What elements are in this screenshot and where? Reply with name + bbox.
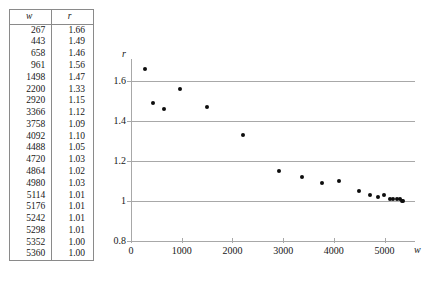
table-row: 14981.47 xyxy=(10,72,94,84)
cell-w: 3366 xyxy=(10,107,52,119)
cell-r: 1.01 xyxy=(52,225,94,237)
table-row: 51141.01 xyxy=(10,189,94,201)
table-head: w r xyxy=(10,10,94,25)
cell-r: 1.46 xyxy=(52,48,94,60)
gridline-horizontal xyxy=(131,121,415,122)
cell-w: 4720 xyxy=(10,154,52,166)
x-tick-label: 3000 xyxy=(263,246,303,256)
cell-w: 3758 xyxy=(10,119,52,131)
cell-r: 1.66 xyxy=(52,24,94,36)
x-tick-label: 4000 xyxy=(314,246,354,256)
scatter-chart: r w 0.811.21.41.6010002000300040005000 xyxy=(100,55,433,299)
cell-w: 5352 xyxy=(10,237,52,249)
cell-r: 1.49 xyxy=(52,36,94,48)
cell-w: 5360 xyxy=(10,248,52,260)
column-header-w: w xyxy=(10,10,52,25)
cell-w: 4864 xyxy=(10,166,52,178)
cell-w: 4092 xyxy=(10,131,52,143)
table-row: 33661.12 xyxy=(10,107,94,119)
cell-w: 5242 xyxy=(10,213,52,225)
y-tick-label: 1.6 xyxy=(86,76,126,86)
table-row: 47201.03 xyxy=(10,154,94,166)
table-row: 22001.33 xyxy=(10,83,94,95)
cell-w: 2920 xyxy=(10,95,52,107)
data-table: w r 2671.664431.496581.469611.5614981.47… xyxy=(9,9,94,261)
y-tick-label: 1 xyxy=(86,196,126,206)
data-point xyxy=(382,193,386,197)
data-table-container: w r 2671.664431.496581.469611.5614981.47… xyxy=(9,9,94,261)
cell-w: 961 xyxy=(10,60,52,72)
table-row: 48641.02 xyxy=(10,166,94,178)
table-row: 6581.46 xyxy=(10,48,94,60)
data-point xyxy=(357,189,361,193)
data-point xyxy=(401,199,405,203)
x-tick-label: 1000 xyxy=(162,246,202,256)
cell-w: 4488 xyxy=(10,142,52,154)
y-axis-label: r xyxy=(122,49,126,59)
gridline-horizontal xyxy=(131,81,415,82)
table-row: 40921.10 xyxy=(10,131,94,143)
data-point xyxy=(300,175,304,179)
table-row: 37581.09 xyxy=(10,119,94,131)
cell-r: 1.15 xyxy=(52,95,94,107)
cell-w: 5114 xyxy=(10,189,52,201)
cell-r: 1.05 xyxy=(52,142,94,154)
cell-w: 1498 xyxy=(10,72,52,84)
cell-w: 4980 xyxy=(10,178,52,190)
cell-r: 1.00 xyxy=(52,248,94,260)
data-point xyxy=(151,101,155,105)
cell-w: 2200 xyxy=(10,83,52,95)
table-row: 9611.56 xyxy=(10,60,94,72)
cell-r: 1.01 xyxy=(52,213,94,225)
figure-page: w r 2671.664431.496581.469611.5614981.47… xyxy=(0,0,433,299)
column-header-r: r xyxy=(52,10,94,25)
cell-w: 658 xyxy=(10,48,52,60)
data-point xyxy=(143,67,147,71)
gridline-horizontal xyxy=(131,241,415,242)
plot-area xyxy=(131,61,415,241)
data-point xyxy=(241,133,245,137)
table-body: 2671.664431.496581.469611.5614981.472200… xyxy=(10,24,94,261)
gridline-horizontal xyxy=(131,201,415,202)
x-tick-label: 2000 xyxy=(212,246,252,256)
data-point xyxy=(368,193,372,197)
table-row: 53521.00 xyxy=(10,237,94,249)
cell-w: 5176 xyxy=(10,201,52,213)
table-row: 2671.66 xyxy=(10,24,94,36)
table-row: 29201.15 xyxy=(10,95,94,107)
table-row: 52421.01 xyxy=(10,213,94,225)
table-row: 53601.00 xyxy=(10,248,94,260)
cell-r: 1.02 xyxy=(52,166,94,178)
cell-w: 267 xyxy=(10,24,52,36)
data-point xyxy=(277,169,281,173)
cell-r: 1.03 xyxy=(52,178,94,190)
x-axis-label: w xyxy=(414,245,421,255)
data-point xyxy=(320,181,324,185)
table-row: 51761.01 xyxy=(10,201,94,213)
data-point xyxy=(178,87,182,91)
data-point xyxy=(162,107,166,111)
x-tick-label: 0 xyxy=(111,246,151,256)
table-row: 49801.03 xyxy=(10,178,94,190)
y-tick-label: 1.4 xyxy=(86,116,126,126)
y-tick-label: 1.2 xyxy=(86,156,126,166)
x-tick-label: 5000 xyxy=(365,246,405,256)
data-point xyxy=(337,179,341,183)
table-row: 52981.01 xyxy=(10,225,94,237)
cell-r: 1.10 xyxy=(52,131,94,143)
data-point xyxy=(205,105,209,109)
table-header-row: w r xyxy=(10,10,94,25)
cell-w: 443 xyxy=(10,36,52,48)
gridline-horizontal xyxy=(131,161,415,162)
table-row: 4431.49 xyxy=(10,36,94,48)
data-point xyxy=(376,195,380,199)
cell-w: 5298 xyxy=(10,225,52,237)
cell-r: 1.56 xyxy=(52,60,94,72)
table-row: 44881.05 xyxy=(10,142,94,154)
y-tick-label: 0.8 xyxy=(86,236,126,246)
